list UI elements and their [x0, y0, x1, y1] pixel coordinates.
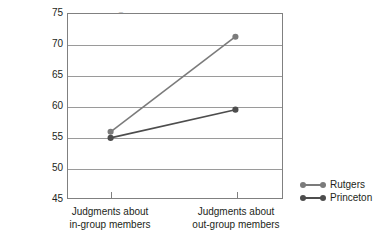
x-axis-label-out-group: Judgments about out-group members	[171, 205, 301, 231]
legend-swatch-icon	[300, 180, 326, 189]
x-axis-label-out-group-line-1: Judgments about	[171, 205, 301, 218]
chart-figure: Percentage of students estimated to make…	[0, 0, 383, 247]
data-point-princeton	[232, 107, 238, 113]
data-point-princeton	[108, 135, 114, 141]
x-axis-label-out-group-line-2: out-group members	[171, 218, 301, 231]
legend-item-princeton[interactable]: Princeton	[300, 191, 383, 204]
series-line-rutgers	[111, 37, 236, 132]
x-axis-label-in-group: Judgments about in-group members	[45, 205, 175, 231]
legend-label: Princeton	[326, 192, 372, 203]
legend-item-rutgers[interactable]: Rutgers	[300, 178, 383, 191]
x-axis-label-in-group-line-1: Judgments about	[45, 205, 175, 218]
y-tick-label: 75	[39, 8, 63, 18]
series-line-princeton	[111, 110, 236, 138]
data-point-rutgers	[232, 34, 238, 40]
y-tick-label: 50	[39, 163, 63, 173]
data-point-rutgers	[108, 129, 114, 135]
data-series-layer	[68, 14, 282, 198]
y-tick-label: 65	[39, 70, 63, 80]
legend: RutgersPrinceton	[300, 178, 383, 204]
y-tick-label: 60	[39, 101, 63, 111]
legend-label: Rutgers	[326, 179, 365, 190]
y-tick-label: 45	[39, 194, 63, 204]
plot-area	[67, 13, 283, 199]
legend-swatch-icon	[300, 193, 326, 202]
y-tick-label: 55	[39, 132, 63, 142]
x-axis-label-in-group-line-2: in-group members	[45, 218, 175, 231]
y-tick-label: 70	[39, 39, 63, 49]
